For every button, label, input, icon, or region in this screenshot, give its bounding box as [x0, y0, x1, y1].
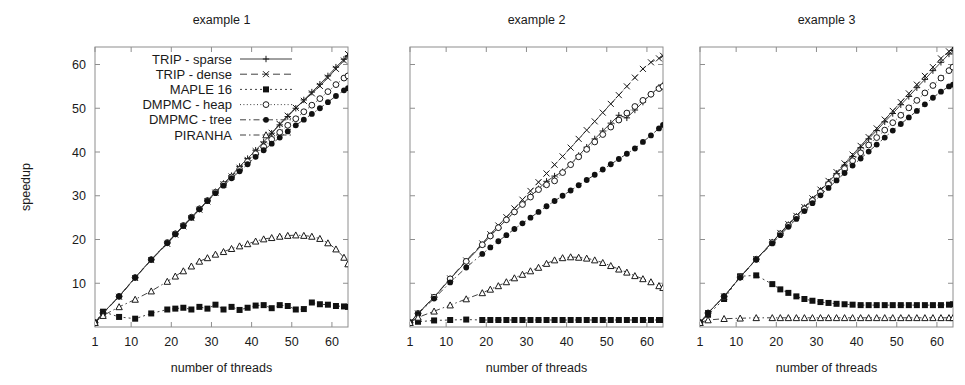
series-marker [309, 102, 315, 108]
series-marker [212, 251, 218, 257]
series-marker [325, 99, 331, 105]
series-marker [341, 303, 347, 309]
series-marker [559, 168, 565, 174]
series-marker [873, 315, 879, 321]
series-marker [341, 56, 347, 62]
series-marker [922, 76, 928, 82]
series-marker [220, 180, 226, 186]
series-marker [632, 104, 638, 110]
series-marker [495, 238, 501, 244]
series-marker [632, 107, 638, 113]
series-marker [930, 83, 936, 89]
series-marker [415, 311, 421, 317]
series-marker [196, 258, 202, 264]
series-marker [842, 160, 848, 166]
series-marker [544, 203, 550, 209]
series-marker [737, 275, 743, 281]
series-marker [850, 158, 856, 164]
x-tick-label: 1 [407, 335, 414, 349]
series-marker [205, 198, 211, 204]
series-marker [229, 304, 235, 310]
series-line [95, 56, 348, 323]
series-marker [180, 305, 186, 311]
series-marker [906, 90, 912, 96]
series-marker [648, 279, 654, 285]
series-marker [624, 110, 630, 116]
series-marker [632, 75, 638, 81]
series-marker [236, 163, 242, 169]
series-piranha [92, 232, 351, 325]
series-marker [345, 304, 351, 310]
series-marker [325, 302, 331, 308]
series-marker [213, 189, 219, 195]
x-tick-label: 30 [810, 335, 824, 349]
series-marker [600, 167, 606, 173]
series-marker [785, 224, 791, 230]
series-marker [172, 232, 178, 238]
series-dmpmc-heap [92, 73, 351, 326]
series-marker [890, 302, 896, 308]
series-marker [801, 204, 807, 210]
series-marker [584, 177, 590, 183]
series-marker [793, 214, 799, 220]
series-marker [866, 134, 872, 140]
series-marker [325, 73, 331, 79]
series-marker [906, 93, 912, 99]
series-marker [512, 226, 518, 232]
series-marker [583, 255, 589, 261]
series-marker [705, 310, 711, 316]
x-tick-label: 60 [930, 335, 944, 349]
series-marker [769, 239, 775, 245]
series-marker [914, 97, 920, 103]
series-marker [196, 207, 202, 213]
series-marker [874, 125, 880, 131]
series-marker [301, 306, 307, 312]
series-marker [552, 317, 558, 323]
series-marker [268, 130, 274, 136]
series-marker [164, 241, 170, 247]
series-marker [950, 64, 956, 70]
series-marker [793, 213, 799, 219]
series-marker [196, 206, 202, 212]
series-marker [841, 162, 847, 168]
series-marker [616, 156, 622, 162]
x-axis-title: number of threads [171, 361, 272, 375]
series-marker [938, 55, 944, 61]
legend-marker [263, 102, 269, 108]
series-marker [769, 239, 775, 245]
series-marker [793, 315, 799, 321]
series-marker [857, 315, 863, 321]
series-trip-dense [92, 51, 351, 326]
series-line [700, 67, 953, 323]
series-marker [600, 132, 606, 138]
series-marker [261, 147, 267, 153]
x-tick-label: 10 [439, 335, 453, 349]
legend-label: TRIP - dense [156, 67, 232, 82]
series-marker [849, 315, 855, 321]
series-marker [164, 240, 170, 246]
series-marker [810, 200, 816, 206]
series-marker [777, 286, 783, 292]
series-marker [253, 151, 259, 157]
series-marker [317, 83, 323, 89]
series-marker [559, 255, 565, 261]
series-marker [922, 101, 928, 107]
series-marker [826, 185, 832, 191]
series-marker [608, 317, 614, 323]
series-marker [616, 317, 622, 323]
series-marker [116, 314, 122, 320]
series-marker [592, 139, 598, 145]
series-line [410, 257, 663, 323]
series-marker [950, 45, 956, 51]
series-marker [938, 89, 944, 95]
series-marker [317, 81, 323, 87]
series-marker [463, 317, 469, 323]
series-marker [196, 304, 202, 310]
series-marker [890, 108, 896, 114]
series-marker [656, 283, 662, 289]
series-marker [777, 315, 783, 321]
series-marker [793, 216, 799, 222]
series-marker [560, 170, 566, 176]
series-marker [737, 274, 743, 280]
series-marker [648, 132, 654, 138]
